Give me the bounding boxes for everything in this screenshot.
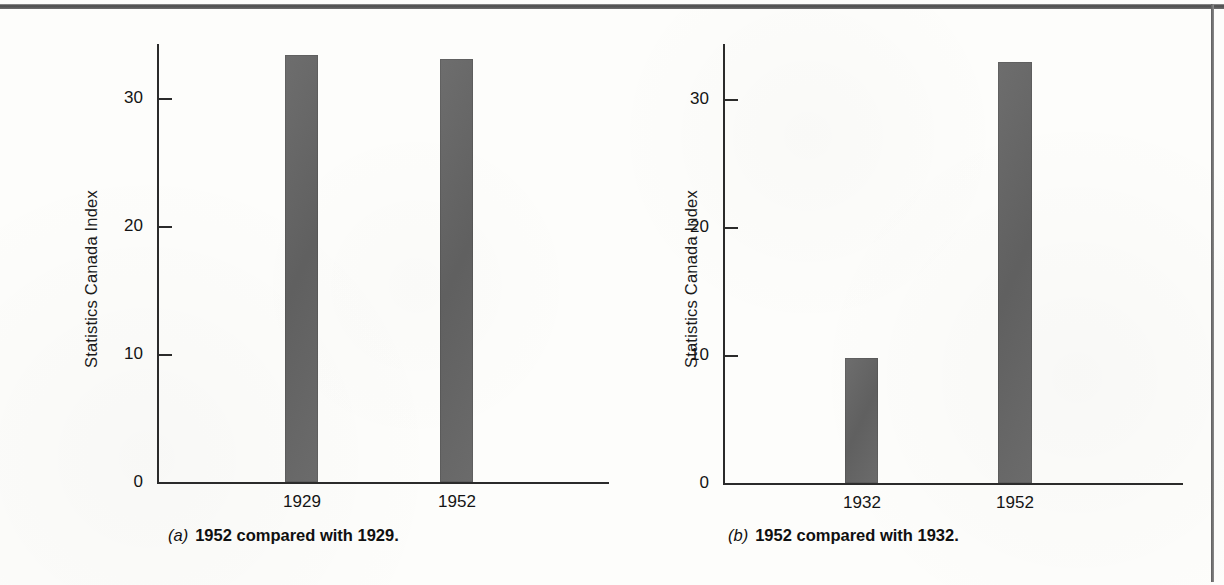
y-tick-label-20: 20	[103, 216, 143, 236]
y-tick-label-10: 10	[103, 344, 143, 364]
y-tick-mark-10	[725, 355, 738, 357]
panel-caption-letter: (b)	[728, 526, 748, 544]
chart-panel-a: Statistics Canada Index 30 20 10 0 1929 …	[0, 0, 612, 585]
figure-container: Statistics Canada Index 30 20 10 0 1929 …	[0, 0, 1224, 585]
y-tick-label-20: 20	[669, 217, 709, 237]
y-tick-mark-20	[159, 226, 172, 228]
x-axis-line	[723, 483, 1183, 485]
y-axis-line	[723, 44, 725, 485]
chart-panel-b: Statistics Canada Index 30 20 10 0 1932 …	[612, 0, 1224, 585]
y-tick-label-30: 30	[103, 88, 143, 108]
bar-1929[interactable]	[285, 55, 318, 482]
panel-caption-text: 1952 compared with 1929.	[195, 526, 399, 544]
panel-caption: (a)1952 compared with 1929.	[168, 526, 399, 545]
panel-caption-letter: (a)	[168, 526, 188, 544]
x-category-label-1: 1929	[257, 492, 347, 512]
y-tick-label-10: 10	[669, 345, 709, 365]
bar-1952[interactable]	[998, 62, 1032, 483]
x-category-label-1: 1932	[817, 493, 907, 513]
x-axis-line	[157, 482, 609, 484]
y-tick-label-30: 30	[669, 89, 709, 109]
panel-caption-text: 1952 compared with 1932.	[755, 526, 959, 544]
x-category-label-2: 1952	[412, 492, 502, 512]
y-tick-mark-30	[159, 98, 172, 100]
bar-1952[interactable]	[440, 59, 473, 482]
y-axis-line	[157, 44, 159, 484]
x-category-label-2: 1952	[970, 493, 1060, 513]
panel-caption: (b)1952 compared with 1932.	[728, 526, 959, 545]
y-tick-mark-10	[159, 354, 172, 356]
y-tick-label-0: 0	[669, 473, 709, 493]
y-tick-mark-30	[725, 99, 738, 101]
y-tick-mark-20	[725, 227, 738, 229]
y-axis-title: Statistics Canada Index	[82, 190, 101, 368]
y-tick-label-0: 0	[103, 472, 143, 492]
bar-1932[interactable]	[845, 358, 878, 483]
